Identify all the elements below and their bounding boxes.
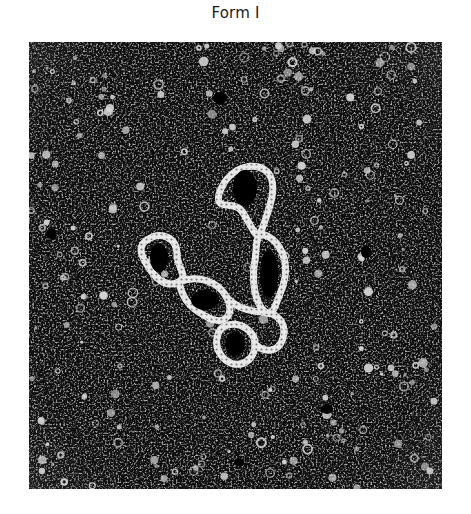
figure: Form I: [0, 0, 471, 514]
electron-micrograph: [29, 42, 442, 489]
figure-title: Form I: [0, 4, 471, 22]
micrograph-canvas: [29, 42, 442, 489]
